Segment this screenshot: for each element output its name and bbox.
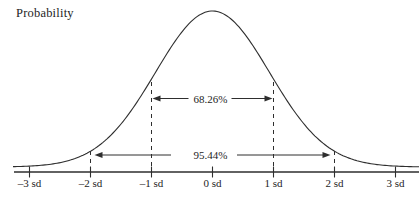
annotation-percentage-1: 95.44%: [194, 149, 228, 161]
annotation-arrowhead-left-1: [95, 152, 103, 158]
x-tick-label--2sd: –2 sd: [79, 177, 103, 189]
annotation-arrowhead-left-0: [153, 96, 161, 102]
annotation-arrowhead-right-0: [265, 96, 273, 102]
bell-curve: [13, 11, 419, 167]
normal-distribution-figure: Probability –3 sd–2 sd–1 sd0 sd1 sd2 sd3…: [0, 0, 419, 204]
annotation-arrowhead-right-1: [323, 152, 331, 158]
x-tick-label-0sd: 0 sd: [203, 177, 221, 189]
x-tick-label-1sd: 1 sd: [264, 177, 282, 189]
x-tick-label--1sd: –1 sd: [140, 177, 164, 189]
x-tick-label-2sd: 2 sd: [325, 177, 343, 189]
x-tick-label--3sd: –3 sd: [18, 177, 42, 189]
annotation-percentage-0: 68.26%: [194, 93, 228, 105]
x-tick-label-3sd: 3 sd: [386, 177, 404, 189]
